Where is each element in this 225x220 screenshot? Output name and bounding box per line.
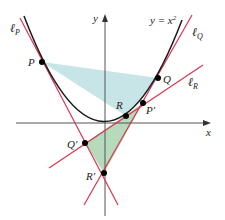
y-axis-label: y <box>92 12 98 24</box>
point-R <box>123 113 129 119</box>
point-label-R: R <box>115 99 123 111</box>
parabola-tangent-diagram: y x y = x2 ℓP ℓQ ℓR P Q R P′ Q′ R′ <box>0 0 225 220</box>
point-P <box>39 59 45 65</box>
point-label-Q: Q <box>163 73 171 85</box>
tangent-line-Q <box>84 15 192 205</box>
point-Q <box>155 75 161 81</box>
y-axis-arrow-icon <box>102 14 108 22</box>
line-label-P: ℓP <box>10 21 20 37</box>
line-label-R: ℓR <box>188 75 198 91</box>
curve-label: y = x2 <box>149 14 177 26</box>
point-Q-prime <box>82 140 88 146</box>
line-label-Q: ℓQ <box>192 25 203 41</box>
x-axis-label: x <box>205 126 211 138</box>
point-label-Q-prime: Q′ <box>67 138 78 150</box>
point-R-prime <box>101 170 107 176</box>
point-label-P: P <box>27 56 35 68</box>
tangent-line-P <box>20 18 118 205</box>
parabola-curve <box>24 16 182 122</box>
point-label-R-prime: R′ <box>85 170 96 182</box>
point-label-P-prime: P′ <box>145 104 156 116</box>
y-axis <box>102 14 108 216</box>
